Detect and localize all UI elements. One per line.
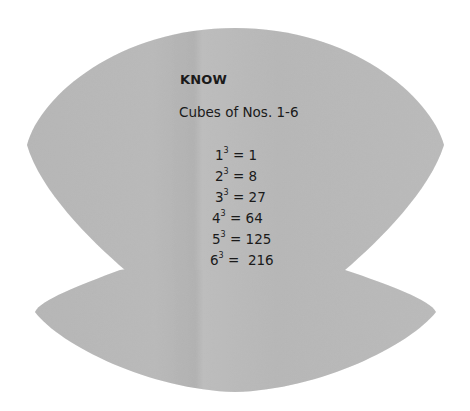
equation-row: 23 = 8 <box>215 168 257 184</box>
card-subtitle: Cubes of Nos. 1-6 <box>179 104 299 120</box>
card-title: KNOW <box>180 72 227 87</box>
equation-row: 53 = 125 <box>212 231 271 247</box>
shell-shape-card <box>0 0 470 411</box>
equation-row: 33 = 27 <box>215 189 266 205</box>
equation-row: 13 = 1 <box>215 147 257 163</box>
equation-row: 43 = 64 <box>212 210 263 226</box>
bottom-lens <box>35 264 436 392</box>
equation-row: 63 = 216 <box>210 252 274 268</box>
